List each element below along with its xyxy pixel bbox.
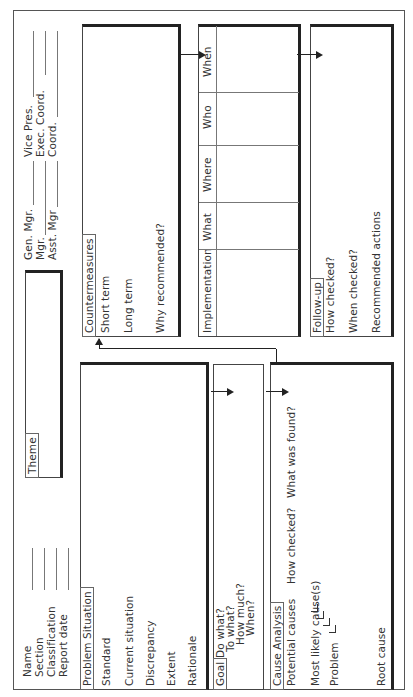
col-divider bbox=[199, 202, 299, 203]
col-divider bbox=[199, 249, 299, 250]
countermeasures-panel[interactable]: Countermeasures Short term Long term Why… bbox=[82, 24, 181, 337]
why-step-icon bbox=[329, 625, 336, 633]
coord-field[interactable] bbox=[57, 31, 58, 117]
current-situation-label: Current situation bbox=[123, 596, 135, 686]
connector-line bbox=[99, 348, 276, 349]
vice-pres-field[interactable] bbox=[33, 31, 34, 97]
goal-panel[interactable]: Goal Do what? To what? How much? When? bbox=[213, 364, 264, 690]
implementation-title: Implementation bbox=[201, 248, 213, 333]
why-step-icon bbox=[317, 611, 324, 619]
goal-title: Goal bbox=[213, 658, 227, 690]
flow-arrow-icon bbox=[266, 391, 287, 392]
why-step-icon bbox=[323, 618, 330, 626]
connector-line bbox=[276, 349, 277, 363]
connector-arrowhead-icon bbox=[95, 338, 103, 345]
col-what: What bbox=[201, 213, 213, 241]
flow-arrow-icon bbox=[297, 54, 321, 55]
potential-causes-label: Potential causes bbox=[285, 599, 297, 686]
vice-pres-label: Vice Pres. bbox=[22, 105, 34, 157]
extent-label: Extent bbox=[165, 651, 177, 686]
how-checked-label: How checked? bbox=[285, 507, 297, 584]
report-date-field[interactable] bbox=[68, 548, 69, 590]
report-date-label: Report date bbox=[57, 614, 69, 677]
cause-analysis-panel[interactable]: Cause Analysis Potential causes How chec… bbox=[270, 362, 394, 690]
implementation-panel[interactable]: Implementation What Where Who When bbox=[198, 24, 301, 337]
name-field[interactable] bbox=[32, 548, 33, 590]
follow-up-panel[interactable]: Follow-up How checked? When checked? Rec… bbox=[310, 24, 394, 337]
discrepancy-label: Discrepancy bbox=[144, 620, 156, 686]
problem-situation-panel[interactable]: Problem Situation Standard Current situa… bbox=[80, 362, 209, 690]
gen-mgr-field[interactable] bbox=[33, 161, 34, 205]
col-divider bbox=[199, 145, 299, 146]
classification-field[interactable] bbox=[56, 548, 57, 590]
when-checked-label: When checked? bbox=[347, 249, 359, 333]
asst-mgr-label: Asst. Mgr bbox=[46, 210, 58, 260]
short-term-label: Short term bbox=[99, 276, 111, 333]
col-divider bbox=[199, 92, 299, 93]
follow-up-title: Follow-up bbox=[310, 278, 324, 337]
theme-box[interactable]: Theme bbox=[25, 270, 63, 478]
gen-mgr-label: Gen. Mgr. bbox=[22, 209, 34, 260]
how-checked-followup-label: How checked? bbox=[324, 256, 336, 333]
exec-coord-field[interactable] bbox=[45, 31, 46, 75]
section-field[interactable] bbox=[44, 548, 45, 590]
col-who: Who bbox=[201, 105, 213, 129]
cause-analysis-title: Cause Analysis bbox=[270, 602, 284, 690]
countermeasures-title: Countermeasures bbox=[82, 234, 96, 337]
long-term-label: Long term bbox=[122, 278, 134, 333]
mgr-field[interactable] bbox=[45, 161, 46, 235]
flow-arrow-icon bbox=[211, 391, 232, 392]
coord-label: Coord. bbox=[46, 122, 58, 157]
flow-arrow-icon bbox=[180, 54, 204, 55]
name-label: Name bbox=[21, 646, 33, 677]
theme-label: Theme bbox=[25, 433, 39, 478]
problem-label: Problem bbox=[328, 642, 340, 686]
asst-mgr-field[interactable] bbox=[57, 161, 58, 207]
when-label: When? bbox=[244, 600, 256, 636]
recommended-actions-label: Recommended actions bbox=[370, 211, 382, 333]
standard-label: Standard bbox=[100, 637, 112, 686]
what-found-label: What was found? bbox=[285, 406, 297, 498]
most-likely-cause-label: Most likely cause(s) bbox=[309, 581, 321, 686]
root-cause-label: Root cause bbox=[375, 627, 387, 686]
problem-situation-title: Problem Situation bbox=[80, 587, 94, 690]
exec-coord-label: Exec. Coord. bbox=[34, 90, 46, 157]
classification-label: Classification bbox=[45, 606, 57, 677]
rationale-label: Rationale bbox=[186, 636, 198, 686]
col-where: Where bbox=[201, 157, 213, 192]
why-recommended-label: Why recommended? bbox=[154, 223, 166, 333]
a3-report-form: Name Section Classification Report date … bbox=[0, 0, 413, 697]
mgr-label: Mgr. bbox=[34, 237, 46, 260]
why-step-icon bbox=[311, 604, 318, 612]
section-label: Section bbox=[33, 637, 45, 677]
